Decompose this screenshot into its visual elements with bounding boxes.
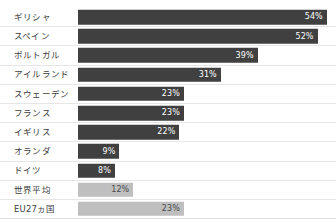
bar-track: 52%	[78, 27, 336, 45]
bar: 54%	[78, 10, 327, 25]
category-label: フランス	[0, 109, 78, 118]
bar-track: 54%	[78, 8, 336, 26]
bar-track: 23%	[78, 85, 336, 103]
bar-value-label: 39%	[236, 51, 254, 59]
chart-row: 世界平均12%	[0, 181, 336, 200]
bar-value-label: 8%	[98, 167, 111, 175]
bar-value-label: 9%	[103, 147, 116, 155]
chart-row: スペイン52%	[0, 27, 336, 46]
chart-row: ドイツ8%	[0, 162, 336, 181]
bar: 23%	[78, 87, 184, 102]
bar-value-label: 23%	[162, 109, 180, 117]
category-label: スペイン	[0, 32, 78, 41]
category-label: ギリシャ	[0, 13, 78, 22]
bar-track: 23%	[78, 200, 336, 218]
category-label: イギリス	[0, 128, 78, 137]
category-label: オランダ	[0, 147, 78, 156]
bar-track: 9%	[78, 142, 336, 160]
chart-row: アイルランド31%	[0, 66, 336, 85]
category-label: 世界平均	[0, 186, 78, 195]
chart-row: スウェーデン23%	[0, 85, 336, 104]
bar-track: 39%	[78, 46, 336, 64]
bar: 23%	[78, 202, 184, 217]
chart-row: ポルトガル39%	[0, 46, 336, 65]
bar-track: 8%	[78, 162, 336, 180]
bar-value-label: 52%	[295, 32, 313, 40]
category-label: アイルランド	[0, 70, 78, 79]
chart-row: オランダ9%	[0, 142, 336, 161]
bar-track: 22%	[78, 123, 336, 141]
bar-value-label: 23%	[162, 205, 180, 213]
bar: 22%	[78, 125, 179, 140]
chart-row: ギリシャ54%	[0, 8, 336, 27]
bar: 23%	[78, 106, 184, 121]
chart-row: EU27ヵ国23%	[0, 200, 336, 219]
category-label: スウェーデン	[0, 90, 78, 99]
bar: 9%	[78, 144, 119, 159]
bar-value-label: 23%	[162, 90, 180, 98]
bar: 52%	[78, 29, 318, 44]
category-label: ポルトガル	[0, 51, 78, 60]
bar-track: 23%	[78, 104, 336, 122]
bar-value-label: 22%	[157, 128, 175, 136]
bar-track: 12%	[78, 181, 336, 199]
bar: 8%	[78, 163, 115, 178]
bar-value-label: 54%	[305, 13, 323, 21]
chart-row: イギリス22%	[0, 123, 336, 142]
chart-row: フランス23%	[0, 104, 336, 123]
bar: 31%	[78, 67, 221, 82]
bar-value-label: 31%	[199, 71, 217, 79]
category-label: EU27ヵ国	[0, 205, 78, 214]
bar-track: 31%	[78, 66, 336, 84]
bar-value-label: 12%	[111, 186, 129, 194]
horizontal-bar-chart: ギリシャ54%スペイン52%ポルトガル39%アイルランド31%スウェーデン23%…	[0, 0, 336, 224]
bar: 12%	[78, 183, 133, 198]
bar: 39%	[78, 48, 258, 63]
category-label: ドイツ	[0, 166, 78, 175]
